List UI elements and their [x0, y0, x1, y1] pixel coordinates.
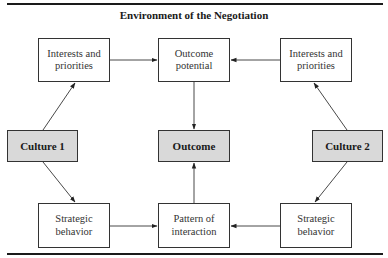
node-label: Interests and priorities [47, 48, 100, 73]
node-culture-2: Culture 2 [312, 130, 383, 162]
node-label: Strategic behavior [55, 213, 92, 238]
node-label: Outcome potential [175, 48, 214, 73]
node-label: Culture 1 [20, 140, 65, 153]
bottom-rule [7, 253, 383, 255]
node-strategic-left: Strategic behavior [38, 203, 110, 248]
node-label: Culture 2 [325, 140, 370, 153]
node-interests-left: Interests and priorities [38, 38, 110, 82]
arrow-culture1-to-strategic [43, 162, 75, 202]
node-outcome: Outcome [158, 130, 230, 162]
node-label: Strategic behavior [297, 213, 334, 238]
node-strategic-right: Strategic behavior [280, 203, 352, 248]
arrow-culture2-to-interests [314, 83, 347, 130]
node-pattern-of-interaction: Pattern of interaction [158, 203, 230, 248]
node-interests-right: Interests and priorities [280, 38, 352, 82]
node-label: Outcome [173, 140, 216, 153]
node-outcome-potential: Outcome potential [158, 38, 230, 82]
node-label: Pattern of interaction [172, 213, 217, 238]
arrow-culture2-to-strategic [315, 162, 347, 202]
node-label: Interests and priorities [289, 48, 342, 73]
arrow-culture1-to-interests [43, 83, 75, 130]
node-culture-1: Culture 1 [7, 130, 78, 162]
